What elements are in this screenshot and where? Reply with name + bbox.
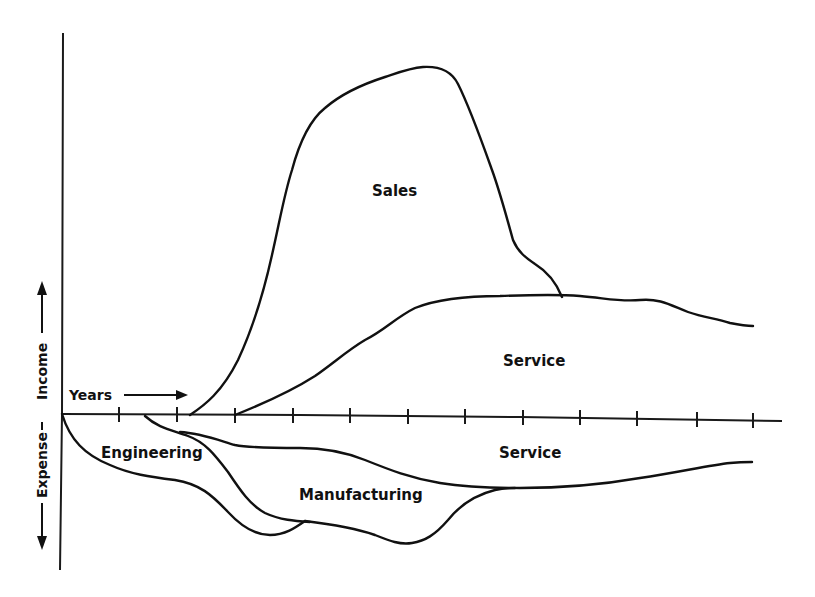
manufacturing-top-curve — [145, 416, 310, 522]
x-axis — [62, 414, 782, 421]
service-expense-curve — [180, 432, 752, 488]
service-income-curve — [235, 295, 753, 415]
service-expense-label: Service — [499, 444, 561, 462]
manufacturing-label: Manufacturing — [299, 486, 423, 504]
service-income-label: Service — [503, 352, 565, 370]
x-axis-ticks — [119, 407, 753, 428]
y-upper-label: Income — [34, 343, 50, 400]
income-axis-label-group: Income — [34, 281, 50, 400]
engineering-label: Engineering — [101, 444, 203, 462]
sales-label: Sales — [372, 182, 417, 200]
arrow-up-icon — [37, 281, 47, 295]
years-arrow-icon — [124, 390, 188, 400]
y-lower-label: Expense — [34, 432, 50, 498]
x-axis-label: Years — [68, 387, 112, 403]
arrow-down-icon — [37, 536, 47, 550]
y-axis — [60, 33, 63, 570]
expense-axis-label-group: Expense — [34, 422, 50, 550]
lifecycle-diagram: Years Income Expense Sales Service Engin… — [0, 0, 815, 597]
